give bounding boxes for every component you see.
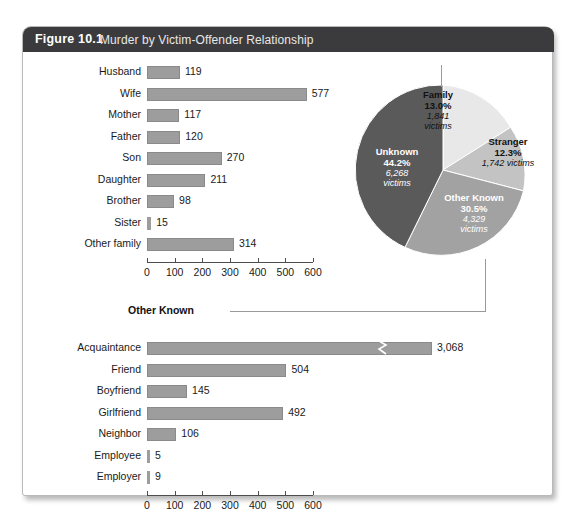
x-axis-tick	[313, 258, 314, 262]
bar-category-label: Husband	[27, 65, 141, 77]
x-axis-tick-label: 500	[277, 499, 295, 511]
bar-value-label: 9	[155, 470, 161, 482]
x-axis-tick-label: 400	[249, 266, 267, 278]
bar-other-family	[147, 238, 234, 251]
bar-value-label: 492	[288, 406, 306, 418]
bar-value-label: 106	[181, 427, 199, 439]
other-known-leader-vertical	[485, 259, 486, 312]
bar-father	[147, 131, 180, 144]
bar-value-label: 211	[210, 173, 227, 185]
x-axis-tick	[147, 258, 148, 262]
other-known-leader-horizontal	[230, 311, 486, 312]
other-known-caption: Other Known	[128, 304, 194, 316]
bar-value-label: 270	[227, 151, 245, 163]
x-axis-tick	[258, 258, 259, 262]
bar-brother	[147, 195, 174, 208]
x-axis-tick	[313, 491, 314, 495]
x-axis-tick-label: 200	[194, 266, 212, 278]
bar-category-label: Employee	[27, 449, 141, 461]
bar-category-label: Brother	[27, 194, 141, 206]
pie-label-other-known: Other Known 30.5% 4,329 victims	[431, 193, 517, 234]
bar-daughter	[147, 174, 205, 187]
bar-category-label: Friend	[27, 363, 141, 375]
bar-husband	[147, 66, 180, 79]
x-axis-tick-label: 300	[221, 266, 239, 278]
pie-label-stranger: Stranger 12.3% 1,742 victims	[460, 137, 556, 168]
bar-value-label: 15	[156, 216, 168, 228]
x-axis-tick-label: 600	[304, 266, 322, 278]
x-axis-tick	[175, 491, 176, 495]
figure-number: Figure 10.1	[35, 32, 103, 46]
bar-category-label: Neighbor	[27, 427, 141, 439]
x-axis-tick-label: 100	[166, 499, 184, 511]
bar-category-label: Employer	[27, 470, 141, 482]
bar-sister	[147, 217, 151, 230]
bar-value-label: 314	[239, 237, 257, 249]
bar-category-label: Daughter	[27, 173, 141, 185]
bar-son	[147, 152, 222, 165]
bar-category-label: Sister	[27, 216, 141, 228]
x-axis-tick	[202, 258, 203, 262]
bar-category-label: Boyfriend	[27, 384, 141, 396]
x-axis-tick	[202, 491, 203, 495]
bar-neighbor	[147, 428, 176, 441]
bar-value-label: 5	[155, 449, 161, 461]
bar-employee	[147, 450, 150, 463]
bar-category-label: Wife	[27, 87, 141, 99]
bar-category-label: Acquaintance	[27, 341, 141, 353]
figure-panel: Figure 10.1 Murder by Victim-Offender Re…	[22, 26, 553, 496]
other-known-bar-chart: Acquaintance3,068Friend504Boyfriend145Gi…	[23, 322, 554, 492]
bar-value-label: 98	[179, 194, 191, 206]
bar-value-label: 117	[184, 108, 201, 120]
x-axis-tick-label: 300	[221, 499, 239, 511]
x-axis-tick	[258, 491, 259, 495]
x-axis-tick-label: 0	[144, 499, 150, 511]
pie-connector-top	[441, 65, 442, 87]
axis-break-zigzag	[376, 340, 390, 357]
x-axis-tick-label: 0	[144, 266, 150, 278]
x-axis-tick-label: 600	[304, 499, 322, 511]
x-axis-tick-label: 400	[249, 499, 267, 511]
x-axis-tick-label: 200	[194, 499, 212, 511]
x-axis-line	[147, 495, 313, 496]
bar-value-label: 145	[192, 384, 210, 396]
x-axis-tick	[230, 491, 231, 495]
bar-category-label: Girlfriend	[27, 406, 141, 418]
bar-wife	[147, 88, 307, 101]
bar-category-label: Mother	[27, 108, 141, 120]
bar-value-label: 3,068	[437, 341, 463, 353]
bar-friend	[147, 364, 286, 377]
bar-employer	[147, 471, 150, 484]
figure-title: Murder by Victim-Offender Relationship	[100, 33, 313, 47]
x-axis-tick-label: 100	[166, 266, 184, 278]
x-axis-tick	[285, 491, 286, 495]
bar-category-label: Father	[27, 130, 141, 142]
bar-value-label: 504	[291, 363, 309, 375]
bar-girlfriend	[147, 407, 283, 420]
x-axis-tick	[230, 258, 231, 262]
pie-label-unknown: Unknown 44.2% 6,268 victims	[359, 147, 435, 188]
x-axis-tick	[285, 258, 286, 262]
bar-boyfriend	[147, 385, 187, 398]
x-axis-tick-label: 500	[277, 266, 295, 278]
bar-value-label: 120	[185, 130, 203, 142]
x-axis-tick	[147, 491, 148, 495]
x-axis-line	[147, 262, 313, 263]
x-axis-tick	[175, 258, 176, 262]
bar-value-label: 577	[312, 87, 330, 99]
bar-value-label: 119	[185, 65, 202, 77]
pie-label-family: Family 13.0% 1,841 victims	[403, 90, 473, 131]
figure-header: Figure 10.1 Murder by Victim-Offender Re…	[23, 27, 554, 52]
bar-category-label: Son	[27, 151, 141, 163]
bar-mother	[147, 109, 179, 122]
bar-category-label: Other family	[27, 237, 141, 249]
